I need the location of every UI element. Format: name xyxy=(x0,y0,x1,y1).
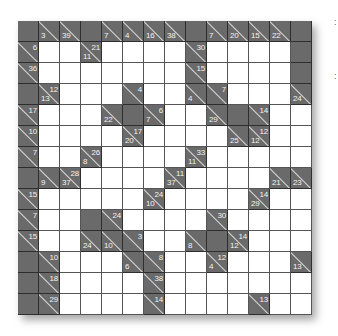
entry-cell[interactable] xyxy=(291,105,312,126)
entry-cell[interactable] xyxy=(123,189,144,210)
entry-cell[interactable] xyxy=(207,189,228,210)
entry-cell[interactable] xyxy=(39,210,60,231)
entry-cell[interactable] xyxy=(228,84,249,105)
entry-cell[interactable] xyxy=(186,189,207,210)
entry-cell[interactable] xyxy=(228,168,249,189)
entry-cell[interactable] xyxy=(270,84,291,105)
entry-cell[interactable] xyxy=(60,252,81,273)
entry-cell[interactable] xyxy=(123,294,144,315)
entry-cell[interactable] xyxy=(186,126,207,147)
entry-cell[interactable] xyxy=(81,84,102,105)
entry-cell[interactable] xyxy=(270,147,291,168)
entry-cell[interactable] xyxy=(102,168,123,189)
entry-cell[interactable] xyxy=(81,126,102,147)
entry-cell[interactable] xyxy=(249,42,270,63)
entry-cell[interactable] xyxy=(60,63,81,84)
entry-cell[interactable] xyxy=(39,231,60,252)
entry-cell[interactable] xyxy=(249,84,270,105)
entry-cell[interactable] xyxy=(144,84,165,105)
entry-cell[interactable] xyxy=(60,273,81,294)
entry-cell[interactable] xyxy=(249,147,270,168)
entry-cell[interactable] xyxy=(81,105,102,126)
entry-cell[interactable] xyxy=(102,42,123,63)
entry-cell[interactable] xyxy=(60,147,81,168)
entry-cell[interactable] xyxy=(165,105,186,126)
entry-cell[interactable] xyxy=(207,42,228,63)
entry-cell[interactable] xyxy=(165,84,186,105)
entry-cell[interactable] xyxy=(144,168,165,189)
entry-cell[interactable] xyxy=(165,147,186,168)
entry-cell[interactable] xyxy=(291,210,312,231)
entry-cell[interactable] xyxy=(165,189,186,210)
entry-cell[interactable] xyxy=(165,252,186,273)
entry-cell[interactable] xyxy=(39,126,60,147)
entry-cell[interactable] xyxy=(270,105,291,126)
entry-cell[interactable] xyxy=(207,294,228,315)
entry-cell[interactable] xyxy=(270,231,291,252)
entry-cell[interactable] xyxy=(249,231,270,252)
entry-cell[interactable] xyxy=(123,273,144,294)
entry-cell[interactable] xyxy=(39,147,60,168)
entry-cell[interactable] xyxy=(270,42,291,63)
entry-cell[interactable] xyxy=(102,147,123,168)
entry-cell[interactable] xyxy=(102,189,123,210)
entry-cell[interactable] xyxy=(291,273,312,294)
entry-cell[interactable] xyxy=(249,63,270,84)
entry-cell[interactable] xyxy=(228,294,249,315)
entry-cell[interactable] xyxy=(144,210,165,231)
entry-cell[interactable] xyxy=(228,42,249,63)
entry-cell[interactable] xyxy=(228,189,249,210)
entry-cell[interactable] xyxy=(228,147,249,168)
entry-cell[interactable] xyxy=(60,294,81,315)
entry-cell[interactable] xyxy=(207,168,228,189)
entry-cell[interactable] xyxy=(81,189,102,210)
entry-cell[interactable] xyxy=(123,63,144,84)
entry-cell[interactable] xyxy=(39,189,60,210)
entry-cell[interactable] xyxy=(249,252,270,273)
entry-cell[interactable] xyxy=(60,84,81,105)
entry-cell[interactable] xyxy=(228,63,249,84)
entry-cell[interactable] xyxy=(60,105,81,126)
entry-cell[interactable] xyxy=(228,273,249,294)
entry-cell[interactable] xyxy=(165,273,186,294)
entry-cell[interactable] xyxy=(270,189,291,210)
entry-cell[interactable] xyxy=(165,294,186,315)
entry-cell[interactable] xyxy=(102,273,123,294)
entry-cell[interactable] xyxy=(60,231,81,252)
entry-cell[interactable] xyxy=(102,84,123,105)
entry-cell[interactable] xyxy=(249,210,270,231)
entry-cell[interactable] xyxy=(291,189,312,210)
entry-cell[interactable] xyxy=(144,231,165,252)
entry-cell[interactable] xyxy=(186,168,207,189)
entry-cell[interactable] xyxy=(144,147,165,168)
entry-cell[interactable] xyxy=(123,168,144,189)
entry-cell[interactable] xyxy=(39,105,60,126)
entry-cell[interactable] xyxy=(81,63,102,84)
entry-cell[interactable] xyxy=(144,42,165,63)
entry-cell[interactable] xyxy=(270,273,291,294)
entry-cell[interactable] xyxy=(207,273,228,294)
entry-cell[interactable] xyxy=(291,294,312,315)
entry-cell[interactable] xyxy=(207,126,228,147)
entry-cell[interactable] xyxy=(291,147,312,168)
entry-cell[interactable] xyxy=(81,294,102,315)
entry-cell[interactable] xyxy=(165,42,186,63)
entry-cell[interactable] xyxy=(39,42,60,63)
entry-cell[interactable] xyxy=(165,63,186,84)
entry-cell[interactable] xyxy=(291,231,312,252)
entry-cell[interactable] xyxy=(165,231,186,252)
entry-cell[interactable] xyxy=(60,189,81,210)
entry-cell[interactable] xyxy=(270,252,291,273)
entry-cell[interactable] xyxy=(102,252,123,273)
entry-cell[interactable] xyxy=(123,210,144,231)
entry-cell[interactable] xyxy=(165,126,186,147)
entry-cell[interactable] xyxy=(186,105,207,126)
entry-cell[interactable] xyxy=(102,63,123,84)
entry-cell[interactable] xyxy=(60,42,81,63)
entry-cell[interactable] xyxy=(270,126,291,147)
entry-cell[interactable] xyxy=(249,168,270,189)
entry-cell[interactable] xyxy=(291,126,312,147)
entry-cell[interactable] xyxy=(207,63,228,84)
entry-cell[interactable] xyxy=(207,147,228,168)
entry-cell[interactable] xyxy=(123,147,144,168)
